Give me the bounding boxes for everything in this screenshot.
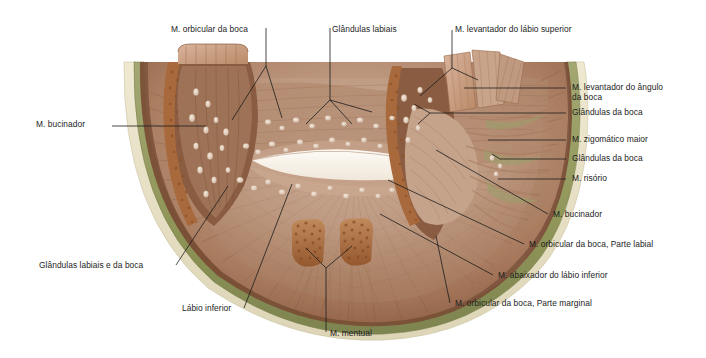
left-cut-stump	[178, 44, 248, 64]
cut-muscle-bundles-upper-right	[444, 50, 524, 112]
figure-canvas: M. orbicular da boca Glândulas labiais M…	[0, 0, 706, 358]
label-m-orbicular-da-boca: M. orbicular da boca	[171, 24, 248, 34]
label-m-zigomatico-maior: M. zigomático maior	[572, 134, 648, 144]
label-glandulas-da-boca-upper: Glândulas da boca	[572, 107, 643, 117]
label-glandulas-da-boca-lower: Glândulas da boca	[572, 153, 643, 163]
label-m-abaixador-do-labio-inferior: M. abaixador do lábio inferior	[498, 270, 608, 280]
label-labio-inferior: Lábio inferior	[182, 303, 231, 313]
specimen-body	[124, 44, 588, 340]
mentalis-stump-right	[340, 218, 373, 266]
mentalis-stump-left	[292, 219, 325, 267]
label-glandulas-labiais: Glândulas labiais	[332, 24, 397, 34]
label-m-orbicular-parte-labial: M. orbicular da boca, Parte labial	[529, 239, 653, 249]
label-m-bucinador-left: M. bucinador	[36, 119, 85, 129]
label-m-levantador-do-labio-superior: M. levantador do lábio superior	[455, 24, 572, 34]
label-m-levantador-do-angulo-da-boca: M. levantador do ângulo da boca	[572, 82, 663, 102]
label-m-mentual: M. mentual	[330, 328, 372, 338]
label-glandulas-labiais-e-da-boca: Glândulas labiais e da boca	[39, 260, 143, 270]
label-m-risorio: M. risório	[572, 173, 607, 183]
label-m-orbicular-parte-marginal: M. orbicular da boca, Parte marginal	[455, 298, 592, 308]
label-m-bucinador-right: M. bucinador	[553, 209, 602, 219]
